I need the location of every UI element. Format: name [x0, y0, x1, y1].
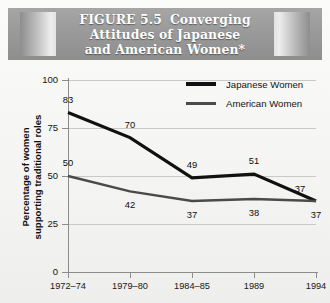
data-point-label: 37 [295, 183, 305, 194]
legend-swatch-american-women [186, 102, 216, 105]
figure-title-line-3: and American Women* [8, 42, 322, 57]
data-point-label: 51 [249, 155, 259, 166]
figure-container: FIGURE 5.5Converging Attitudes of Japane… [0, 0, 330, 303]
data-point-label: 42 [125, 199, 135, 210]
legend-item-japanese-women: Japanese Women [186, 76, 303, 92]
figure-title-banner: FIGURE 5.5Converging Attitudes of Japane… [8, 8, 322, 60]
figure-number: FIGURE 5.5 [79, 12, 162, 27]
data-point-label: 37 [311, 209, 321, 220]
series-line-american-women [68, 176, 316, 201]
data-point-label: 83 [63, 94, 73, 105]
data-point-label: 70 [125, 119, 135, 130]
data-point-label: 37 [187, 209, 197, 220]
figure-title-line-1: Converging [170, 12, 251, 27]
legend-label-american-women: American Women [226, 98, 302, 109]
data-point-label: 38 [249, 207, 259, 218]
legend-label-japanese-women: Japanese Women [226, 79, 303, 90]
figure-title-line-2: Attitudes of Japanese [8, 27, 322, 42]
data-point-label: 49 [187, 159, 197, 170]
data-point-label: 50 [63, 157, 73, 168]
figure-title: FIGURE 5.5Converging Attitudes of Japane… [8, 12, 322, 57]
chart-legend: Japanese Women American Women [186, 76, 303, 114]
series-line-japanese-women [68, 113, 316, 201]
legend-item-american-women: American Women [186, 95, 303, 111]
legend-swatch-japanese-women [186, 82, 216, 86]
